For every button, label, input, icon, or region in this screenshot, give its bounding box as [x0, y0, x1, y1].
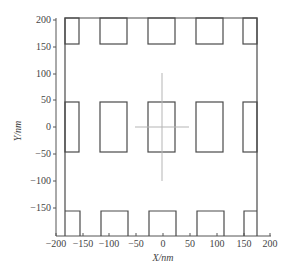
- svg-text:−50: −50: [128, 238, 144, 249]
- svg-text:150: 150: [36, 41, 51, 52]
- crosshair: [135, 73, 189, 181]
- top-row-rects: [65, 18, 257, 44]
- y-tick-labels: 200 150 100 50 0 −50 −100 −150: [30, 14, 51, 213]
- svg-text:50: 50: [185, 238, 195, 249]
- bottom-row-rects: [65, 211, 257, 236]
- svg-text:−150: −150: [30, 202, 51, 213]
- svg-text:200: 200: [36, 14, 51, 25]
- x-tick-labels: −200 −150 −100 −50 0 50 100 150 200: [46, 238, 278, 249]
- x-axis-label: X/nm: [151, 252, 173, 263]
- svg-text:100: 100: [210, 238, 225, 249]
- svg-text:50: 50: [41, 94, 51, 105]
- svg-text:0: 0: [46, 121, 51, 132]
- svg-text:−200: −200: [46, 238, 67, 249]
- svg-text:−50: −50: [35, 148, 51, 159]
- svg-text:−100: −100: [30, 175, 51, 186]
- svg-text:100: 100: [36, 68, 51, 79]
- chart-canvas: 200 150 100 50 0 −50 −100 −150 −200 −150…: [0, 0, 291, 270]
- svg-text:150: 150: [237, 238, 252, 249]
- svg-text:−100: −100: [99, 238, 120, 249]
- y-axis-label: Y/nm: [12, 121, 23, 142]
- svg-text:0: 0: [161, 238, 166, 249]
- svg-text:200: 200: [263, 238, 278, 249]
- svg-text:−150: −150: [73, 238, 94, 249]
